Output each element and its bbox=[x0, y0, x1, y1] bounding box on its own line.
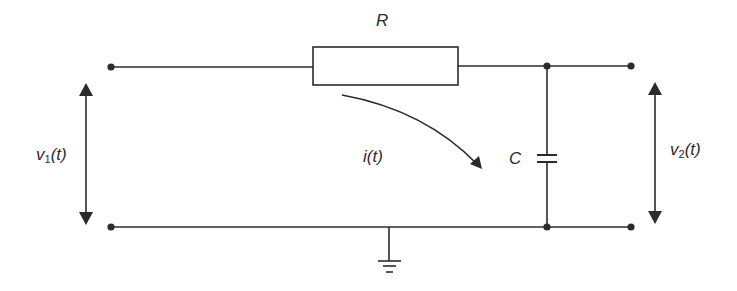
resistor-label: R bbox=[376, 12, 388, 29]
input-top-terminal bbox=[107, 63, 114, 70]
v1-arrow-icon bbox=[79, 83, 93, 225]
output-voltage-label: v2(t) bbox=[670, 141, 701, 160]
resistor bbox=[313, 47, 458, 85]
v1-arg: (t) bbox=[51, 145, 67, 164]
junction-top bbox=[543, 62, 550, 69]
output-top-terminal bbox=[627, 62, 634, 69]
ground-icon bbox=[378, 227, 401, 272]
v2-arrow-icon bbox=[648, 82, 662, 224]
current-label: i(t) bbox=[363, 148, 383, 165]
v1-symbol: v bbox=[36, 145, 45, 164]
junction-bottom bbox=[543, 223, 550, 230]
rc-circuit-diagram bbox=[0, 0, 737, 291]
input-voltage-label: v1(t) bbox=[36, 146, 67, 165]
v2-arg: (t) bbox=[685, 140, 701, 159]
capacitor-label: C bbox=[509, 150, 521, 167]
output-bottom-terminal bbox=[627, 223, 634, 230]
v2-symbol: v bbox=[670, 140, 679, 159]
input-bottom-terminal bbox=[107, 223, 114, 230]
